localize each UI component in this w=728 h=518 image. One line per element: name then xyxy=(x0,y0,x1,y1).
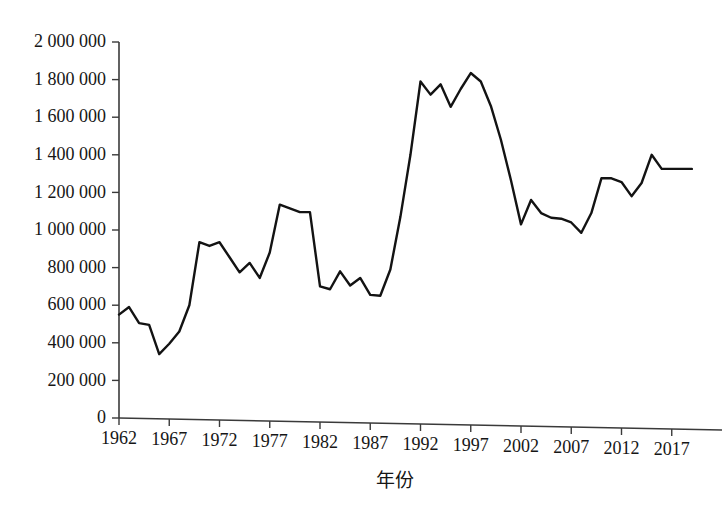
x-tick-label: 1992 xyxy=(403,434,439,454)
x-tick-label: 1982 xyxy=(302,432,338,452)
y-tick-label: 800 000 xyxy=(48,257,107,277)
y-tick-label: 1 600 000 xyxy=(34,106,106,126)
y-tick-label: 1 200 000 xyxy=(34,182,106,202)
x-axis-title: 年份 xyxy=(376,470,414,491)
chart-figure: 0200 000400 000600 000800 0001 000 0001 … xyxy=(0,0,728,518)
line-chart-canvas: 0200 000400 000600 000800 0001 000 0001 … xyxy=(0,0,728,518)
x-tick-label: 1967 xyxy=(151,429,187,449)
y-tick-label: 2 000 000 xyxy=(34,31,106,51)
x-tick-label: 1987 xyxy=(352,433,388,453)
y-tick-label: 400 000 xyxy=(48,332,107,352)
y-tick-label: 1 800 000 xyxy=(34,69,106,89)
x-tick-label: 2012 xyxy=(604,438,640,458)
x-tick-label: 2002 xyxy=(503,436,539,456)
y-tick-label: 600 000 xyxy=(48,294,107,314)
x-tick-label: 2017 xyxy=(654,439,690,459)
x-tick-label: 1977 xyxy=(252,431,288,451)
x-tick-label: 1962 xyxy=(101,428,137,448)
x-tick-label: 2007 xyxy=(553,437,589,457)
x-tick-label: 1997 xyxy=(453,435,489,455)
x-tick-label: 1972 xyxy=(202,430,238,450)
y-tick-label: 200 000 xyxy=(48,370,107,390)
y-tick-label: 1 400 000 xyxy=(34,144,106,164)
y-tick-label: 0 xyxy=(97,407,106,427)
y-tick-label: 1 000 000 xyxy=(34,219,106,239)
